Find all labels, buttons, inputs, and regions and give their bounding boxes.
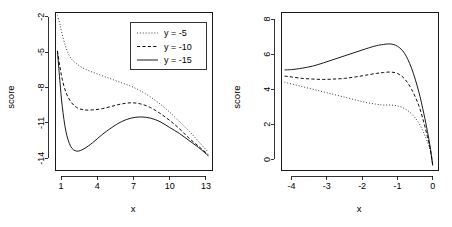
right-x-tick-label: -2	[358, 181, 366, 191]
right-y-tick-label: 0	[262, 157, 272, 162]
left-x-tick-label: 13	[201, 181, 211, 191]
right-y-tick-label: 4	[262, 87, 272, 92]
left-legend: y = -5y = -10y = -15	[130, 22, 206, 69]
right-curve-dotted	[285, 82, 433, 165]
right-y-tick-label: 8	[262, 17, 272, 22]
legend-label-dotted: y = -5	[164, 28, 187, 38]
left-x-axis-title: x	[131, 203, 136, 214]
left-x-tick-label: 10	[165, 181, 175, 191]
left-x-tick-label: 1	[59, 181, 64, 191]
right-y-axis-title: score	[231, 85, 242, 108]
left-y-tick-label: -5	[36, 48, 46, 56]
right-x-tick-label: 0	[430, 181, 435, 191]
left-plot-svg: 1471013-2-5-8-11-14 y = -5y = -10y = -15…	[0, 0, 226, 227]
right-y-tick-label: 2	[262, 122, 272, 127]
legend-label-dashed: y = -10	[164, 42, 192, 52]
chart-panel-left: 1471013-2-5-8-11-14 y = -5y = -10y = -15…	[0, 0, 226, 227]
right-x-tick-label: -1	[393, 181, 401, 191]
left-y-tick-label: -14	[36, 152, 46, 165]
figure-two-panel-line-charts: 1471013-2-5-8-11-14 y = -5y = -10y = -15…	[0, 0, 452, 227]
legend-label-solid: y = -15	[164, 55, 192, 65]
left-x-tick-label: 4	[95, 181, 100, 191]
right-y-tick-label: 6	[262, 52, 272, 57]
right-curve-dashed	[285, 72, 433, 165]
chart-panel-right: -4-3-2-1002468 x score	[226, 0, 452, 227]
left-y-tick-label: -8	[36, 83, 46, 91]
right-x-tick-label: -3	[323, 181, 331, 191]
right-x-axis-title: x	[357, 203, 362, 214]
right-x-tick-label: -4	[288, 181, 296, 191]
right-curve-group	[285, 44, 433, 166]
right-plot-svg: -4-3-2-1002468 x score	[226, 0, 452, 227]
right-plot-frame	[281, 12, 438, 170]
right-curve-solid	[285, 44, 433, 166]
left-y-tick-label: -11	[36, 117, 46, 129]
left-x-tick-label: 7	[131, 181, 136, 191]
left-y-tick-label: -2	[36, 13, 46, 21]
right-axis-ticks: -4-3-2-1002468	[262, 17, 435, 191]
left-y-axis-title: score	[5, 85, 16, 108]
